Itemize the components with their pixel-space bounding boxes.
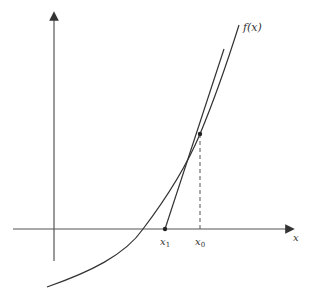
x1-point bbox=[163, 227, 167, 231]
tangent-point bbox=[198, 132, 202, 136]
x0-label: x0 bbox=[195, 236, 205, 249]
function-label: f(x) bbox=[242, 21, 262, 34]
x-axis-label: x bbox=[293, 232, 299, 243]
function-curve bbox=[47, 25, 239, 287]
x1-label: x1 bbox=[160, 236, 170, 249]
tangent-line bbox=[165, 49, 224, 229]
diagram-canvas: f(x) x x1 x0 bbox=[0, 0, 315, 303]
